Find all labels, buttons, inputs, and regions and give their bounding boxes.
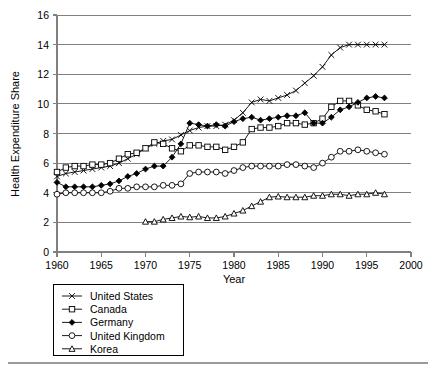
x-tick-labels-group: 196019651970197519801985199019952000 [45,259,423,271]
datapoint-3-18 [213,169,219,175]
datapoint-3-23 [258,163,264,169]
datapoint-1-33 [346,98,351,103]
datapoint-3-0 [54,191,60,197]
y-axis-title: Health Expenditure Share [9,71,21,197]
y-tick-label-14: 14 [37,39,49,51]
y-tick-label-12: 12 [37,68,49,80]
datapoint-1-24 [267,125,272,130]
legend-label: Germany [90,316,134,328]
x-tick-label-2000: 2000 [399,259,423,271]
x-tick-label-1995: 1995 [355,259,379,271]
datapoint-1-18 [214,144,219,149]
datapoint-3-35 [364,148,370,154]
legend-label: Korea [90,343,118,355]
datapoint-3-4 [90,190,96,196]
datapoint-3-20 [231,168,237,174]
datapoint-3-28 [302,163,308,169]
datapoint-1-2 [72,163,77,168]
x-tick-label-1985: 1985 [267,259,291,271]
datapoint-3-19 [222,171,228,177]
datapoint-1-23 [258,125,263,130]
datapoint-1-11 [152,140,157,145]
datapoint-1-16 [196,143,201,148]
datapoint-1-36 [373,109,378,114]
x-tick-label-1960: 1960 [45,259,69,271]
x-tick-label-1970: 1970 [134,259,158,271]
x-tick-label-1990: 1990 [311,259,335,271]
datapoint-1-13 [169,146,174,151]
datapoint-3-8 [125,185,131,191]
datapoint-3-26 [284,162,290,168]
datapoint-3-5 [98,190,104,196]
datapoint-1-17 [205,144,210,149]
y-tick-label-2: 2 [43,216,49,228]
chart-legend: United StatesCanadaGermanyUnited Kingdom… [54,285,184,356]
datapoint-1-37 [382,112,387,117]
datapoint-3-6 [107,188,113,194]
datapoint-1-20 [231,144,236,149]
datapoint-1-5 [99,162,104,167]
datapoint-3-11 [151,184,157,190]
datapoint-1-35 [364,107,369,112]
footer-divider [8,362,428,364]
datapoint-3-30 [320,160,326,166]
datapoint-3-21 [240,165,246,171]
datapoint-3-36 [373,150,379,156]
datapoint-1-7 [116,156,121,161]
datapoint-1-8 [125,152,130,157]
legend-marker-open-circle-icon [69,333,75,339]
datapoint-3-14 [178,181,184,187]
datapoint-3-9 [134,184,140,190]
x-axis-title: Year [223,273,246,285]
legend-marker-open-square-icon [69,307,74,312]
x-tick-label-1980: 1980 [222,259,246,271]
datapoint-1-15 [187,143,192,148]
datapoint-1-31 [329,104,334,109]
y-tick-label-8: 8 [43,128,49,140]
datapoint-3-3 [81,190,87,196]
datapoint-1-22 [249,126,254,131]
datapoint-1-3 [81,163,86,168]
legend-label: United States [90,290,153,302]
datapoint-3-37 [382,151,388,157]
datapoint-3-13 [169,182,175,188]
x-tick-label-1975: 1975 [178,259,202,271]
y-tick-label-4: 4 [43,187,49,199]
datapoint-3-2 [72,190,78,196]
y-tick-label-0: 0 [43,246,49,258]
health-expenditure-line-chart: 0246810121416 19601965197019751980198519… [0,0,436,370]
datapoint-1-28 [302,122,307,127]
datapoint-3-10 [143,184,149,190]
legend-label: United Kingdom [90,330,165,342]
datapoint-1-19 [222,147,227,152]
datapoint-3-24 [267,163,273,169]
datapoint-1-10 [143,146,148,151]
datapoint-1-0 [54,169,59,174]
datapoint-1-14 [178,149,183,154]
datapoint-3-29 [311,165,317,171]
y-tick-label-10: 10 [37,98,49,110]
datapoint-3-31 [328,154,334,160]
datapoint-3-15 [187,171,193,177]
datapoint-3-17 [205,169,211,175]
legend-label: Canada [90,303,127,315]
datapoint-3-33 [346,148,352,154]
datapoint-3-16 [196,169,202,175]
datapoint-1-26 [284,120,289,125]
datapoint-1-27 [293,120,298,125]
datapoint-1-25 [276,123,281,128]
datapoint-1-9 [134,150,139,155]
datapoint-3-27 [293,162,299,168]
datapoint-3-22 [249,163,255,169]
datapoint-1-6 [107,160,112,165]
datapoint-3-12 [160,182,166,188]
chart-figure: 0246810121416 19601965197019751980198519… [0,0,436,370]
datapoint-3-34 [355,147,361,153]
y-tick-label-16: 16 [37,9,49,21]
datapoint-1-12 [161,141,166,146]
datapoint-1-4 [90,162,95,167]
y-tick-label-6: 6 [43,157,49,169]
datapoint-1-32 [338,98,343,103]
datapoint-3-1 [63,190,69,196]
datapoint-3-32 [337,148,343,154]
